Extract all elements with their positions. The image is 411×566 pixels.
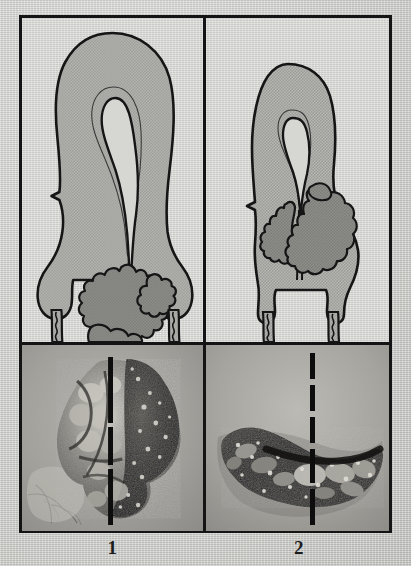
diagram-panel-2	[206, 18, 389, 342]
vaginal-wall-left-1	[52, 310, 63, 342]
uterus-diagram-2-svg	[206, 18, 389, 342]
uterus-diagram-1-svg	[22, 18, 203, 342]
vaginal-wall-right-1	[169, 310, 180, 342]
photo-panel-2	[206, 345, 389, 531]
caption-number-1: 1	[19, 536, 206, 562]
caption-number-2: 2	[206, 536, 393, 562]
photo-panel-1	[22, 345, 206, 531]
diagram-row	[22, 18, 389, 342]
page-background: 1 2	[0, 0, 411, 566]
tumor-lobe-superior-2	[309, 183, 332, 200]
photo-row	[22, 342, 389, 531]
photo-1-midline-overlay	[108, 357, 113, 525]
photo-2-midline-overlay	[310, 353, 315, 525]
diagram-panel-1	[22, 18, 206, 342]
gross-specimen-photo-2-svg	[206, 345, 389, 531]
vaginal-wall-left-2	[263, 312, 274, 342]
gross-specimen-photo-1-svg	[22, 345, 203, 531]
figure-frame	[19, 15, 392, 533]
vaginal-wall-right-2	[328, 312, 339, 342]
caption-row: 1 2	[19, 536, 392, 562]
